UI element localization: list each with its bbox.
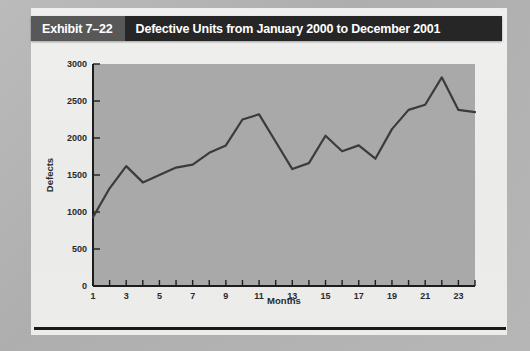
x-tick-label: 1 <box>90 291 95 301</box>
y-tick-label: 1000 <box>67 207 87 217</box>
x-tick-label: 15 <box>321 291 331 301</box>
footer-rule <box>34 327 506 330</box>
y-axis-title: Defects <box>44 158 55 192</box>
exhibit-header: Exhibit 7–22 Defective Units from Januar… <box>31 16 502 41</box>
x-tick-label: 5 <box>157 291 162 301</box>
exhibit-title: Defective Units from January 2000 to Dec… <box>125 16 502 41</box>
x-tick-label: 9 <box>223 291 228 301</box>
y-tick-label: 2000 <box>67 133 87 143</box>
y-tick-label: 0 <box>82 281 87 291</box>
x-tick-label: 7 <box>190 291 195 301</box>
y-tick-label: 2500 <box>67 96 87 106</box>
x-axis-title: Months <box>267 295 301 306</box>
x-tick-label: 21 <box>420 291 430 301</box>
plot-area-background <box>93 64 475 286</box>
x-tick-label: 3 <box>124 291 129 301</box>
x-tick-label: 17 <box>354 291 364 301</box>
exhibit-number: Exhibit 7–22 <box>31 16 125 41</box>
y-tick-label: 500 <box>72 244 87 254</box>
y-tick-label: 3000 <box>67 59 87 69</box>
chart-container: 050010001500200025003000 135791113151719… <box>31 45 507 307</box>
defects-line-chart: 050010001500200025003000 135791113151719… <box>31 45 507 307</box>
x-tick-label: 23 <box>453 291 463 301</box>
y-tick-label: 1500 <box>67 170 87 180</box>
x-tick-label: 11 <box>254 291 264 301</box>
x-tick-label: 19 <box>387 291 397 301</box>
